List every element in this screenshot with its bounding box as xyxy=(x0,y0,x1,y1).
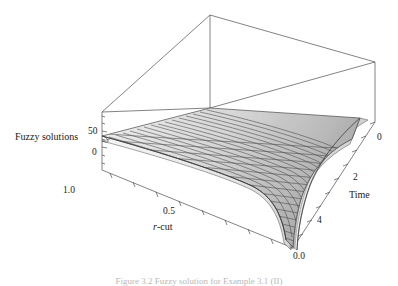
y-axis-tick-4: 4 xyxy=(317,216,322,226)
z-axis-tick-0: 0 xyxy=(92,148,97,158)
y-axis-tick-2: 2 xyxy=(353,173,358,183)
figure-container: Fuzzy solutions 50 0 r-cut 1.0 0.5 0.0 T… xyxy=(0,0,398,286)
x-axis-tick-0-5: 0.5 xyxy=(163,207,175,217)
figure-caption: Figure 3.2 Fuzzy solution for Example 3.… xyxy=(0,276,398,286)
x-axis-tick-1-0: 1.0 xyxy=(63,186,75,196)
x-axis-tick-0-0: 0.0 xyxy=(293,252,305,262)
bounding-box-back xyxy=(102,15,375,112)
z-axis-tick-50: 50 xyxy=(88,127,98,137)
surface-plot-3d xyxy=(0,0,398,286)
y-axis-tick-0: 0 xyxy=(377,133,382,143)
x-axis-label: r-cut xyxy=(153,222,172,232)
z-axis-label: Fuzzy solutions xyxy=(15,132,78,142)
x-axis-label-suffix: -cut xyxy=(157,221,173,232)
y-axis-label: Time xyxy=(349,190,370,200)
